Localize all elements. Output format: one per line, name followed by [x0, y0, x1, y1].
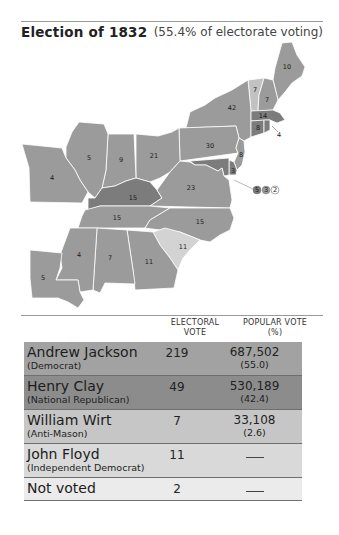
label-nj: 8	[239, 151, 243, 159]
popular-vote-cell: 687,502 (55.0)	[207, 342, 302, 376]
popular-vote-header: POPULAR VOTE (%)	[225, 318, 325, 338]
table-row: Not voted 2	[24, 478, 302, 501]
candidate-cell: William Wirt (Anti-Mason)	[24, 410, 147, 444]
label-il: 5	[87, 154, 91, 162]
no-popular-vote-dash	[246, 491, 264, 493]
md-split-2: 3	[264, 186, 268, 194]
candidate-cell: Andrew Jackson (Democrat)	[24, 342, 147, 376]
state-ri	[264, 120, 270, 133]
candidate-party: (Democrat)	[27, 360, 147, 371]
turnout-subtitle: (55.4% of electorate voting)	[154, 25, 323, 39]
label-tn: 15	[113, 214, 121, 222]
label-ky: 15	[129, 194, 137, 202]
electoral-vote: 49	[147, 376, 207, 410]
table-row: William Wirt (Anti-Mason) 7 33,108 (2.6)	[24, 410, 302, 444]
header-line: (%)	[268, 328, 282, 337]
popular-vote: 33,108	[234, 413, 276, 427]
map-title: Election of 1832	[21, 24, 147, 40]
candidate-name: William Wirt	[27, 410, 147, 428]
candidate-party: (Independent Democrat)	[27, 462, 147, 473]
label-ma: 14	[259, 112, 267, 120]
popular-vote: 687,502	[230, 345, 280, 359]
candidate-cell: John Floyd (Independent Democrat)	[24, 444, 147, 478]
popular-vote-cell	[207, 478, 302, 501]
label-ga: 11	[145, 258, 153, 266]
label-nh: 7	[265, 96, 269, 104]
candidate-party: (National Republican)	[27, 394, 147, 405]
popular-vote-cell: 33,108 (2.6)	[207, 410, 302, 444]
table-row: Henry Clay (National Republican) 49 530,…	[24, 376, 302, 410]
label-sc: 11	[179, 243, 187, 251]
label-ri: 4	[277, 131, 281, 139]
label-la: 5	[41, 274, 45, 282]
header-line: POPULAR VOTE	[243, 318, 307, 327]
label-me: 10	[283, 63, 291, 71]
no-popular-vote-dash	[246, 457, 264, 459]
md-split-3: 2	[273, 186, 277, 194]
candidate-party: (Anti-Mason)	[27, 428, 147, 439]
popular-percent: (55.0)	[207, 359, 302, 370]
popular-vote-cell: 530,189 (42.4)	[207, 376, 302, 410]
label-va: 23	[187, 184, 195, 192]
label-de: 3	[231, 167, 235, 175]
state-me	[273, 42, 305, 100]
table-rule	[21, 315, 323, 316]
label-oh: 21	[150, 152, 158, 160]
candidate-name: Henry Clay	[27, 376, 147, 394]
election-map: 10 7 7 42 14 8 4 30 8 3 21 9 5 4 15 23 1…	[0, 40, 339, 315]
header-line: ELECTORAL	[171, 318, 219, 327]
label-ms: 4	[77, 251, 81, 259]
label-vt: 7	[253, 86, 257, 94]
electoral-vote: 219	[147, 342, 207, 376]
candidate-name: John Floyd	[27, 444, 147, 462]
results-table: Andrew Jackson (Democrat) 219 687,502 (5…	[24, 342, 302, 501]
header-line: VOTE	[184, 328, 206, 337]
popular-vote-cell	[207, 444, 302, 478]
electoral-vote: 2	[147, 478, 207, 501]
title-rule	[21, 21, 323, 22]
electoral-vote: 11	[147, 444, 207, 478]
popular-percent: (2.6)	[207, 427, 302, 438]
candidate-name: Andrew Jackson	[27, 342, 147, 360]
maryland-split-callout: 5 3 2	[253, 186, 279, 194]
electoral-vote: 7	[147, 410, 207, 444]
label-in: 9	[119, 156, 123, 164]
candidate-cell: Not voted	[24, 478, 147, 501]
table-row: John Floyd (Independent Democrat) 11	[24, 444, 302, 478]
candidate-name: Not voted	[27, 478, 147, 496]
label-ct: 8	[256, 124, 260, 132]
table-row: Andrew Jackson (Democrat) 219 687,502 (5…	[24, 342, 302, 376]
popular-vote: 530,189	[230, 379, 280, 393]
label-al: 7	[108, 254, 112, 262]
label-nc: 15	[196, 218, 204, 226]
popular-percent: (42.4)	[207, 393, 302, 404]
md-split-1: 5	[255, 186, 259, 194]
label-mo: 4	[50, 174, 54, 182]
candidate-cell: Henry Clay (National Republican)	[24, 376, 147, 410]
label-pa: 30	[206, 142, 214, 150]
label-ny: 42	[228, 104, 236, 112]
